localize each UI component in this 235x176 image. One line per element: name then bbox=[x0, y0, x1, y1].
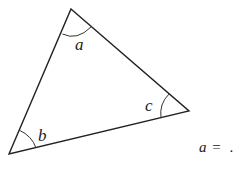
triangle-diagram: a c b a = . bbox=[0, 0, 235, 176]
angle-arc-c bbox=[161, 94, 169, 118]
triangle bbox=[9, 9, 189, 154]
angle-label-b: b bbox=[38, 126, 47, 145]
angle-label-a: a bbox=[75, 35, 84, 54]
angle-arc-b bbox=[19, 130, 36, 148]
equation-terminator: . bbox=[229, 139, 233, 155]
equation-operator: = bbox=[212, 139, 220, 155]
equation-variable: a bbox=[199, 139, 207, 155]
angle-label-c: c bbox=[145, 96, 153, 115]
equation: a = . bbox=[199, 139, 233, 155]
